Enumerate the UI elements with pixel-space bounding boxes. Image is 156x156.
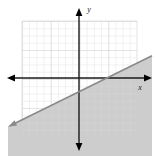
- coordinate-plane-figure: x y: [0, 0, 156, 156]
- y-axis-label: y: [86, 5, 91, 14]
- graph-screenshot: x y: [0, 0, 156, 156]
- x-axis-label: x: [137, 83, 142, 92]
- y-axis-up-arrow: [76, 8, 83, 16]
- x-axis-left-arrow: [7, 75, 15, 82]
